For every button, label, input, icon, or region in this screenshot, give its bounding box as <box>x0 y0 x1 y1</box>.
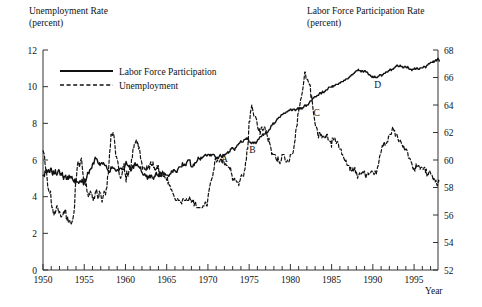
left-tick-label: 6 <box>32 156 37 166</box>
axes-layer: 0246810125254565860626466681950195519601… <box>28 46 454 285</box>
legend-layer: Labor Force ParticipationUnemployment <box>60 67 217 91</box>
left-tick-label: 4 <box>32 192 37 202</box>
annotation-layer: ABCD <box>221 80 381 164</box>
annotation-a: A <box>221 154 228 164</box>
annotation-b: B <box>249 145 255 155</box>
x-tick-label: 1980 <box>281 275 300 285</box>
x-tick-label: 1955 <box>75 275 94 285</box>
right-tick-label: 64 <box>444 101 454 111</box>
left-tick-label: 2 <box>32 229 37 239</box>
x-tick-label: 1990 <box>363 275 382 285</box>
legend-label-unemployment: Unemployment <box>119 81 178 91</box>
x-tick-label: 1985 <box>322 275 341 285</box>
right-tick-label: 54 <box>444 238 454 248</box>
x-tick-label: 1970 <box>198 275 217 285</box>
right-tick-label: 60 <box>444 156 454 166</box>
right-tick-label: 56 <box>444 211 454 221</box>
right-tick-label: 68 <box>444 46 454 56</box>
right-tick-label: 58 <box>444 183 454 193</box>
chart-root: Unemployment Rate(percent) Labor Force P… <box>0 0 482 307</box>
annotation-d: D <box>374 80 381 90</box>
x-tick-label: 1995 <box>405 275 424 285</box>
series-line-unemployment <box>43 72 439 224</box>
series-line-labor-force-participation <box>43 58 439 185</box>
left-tick-label: 12 <box>28 46 38 56</box>
right-tick-label: 52 <box>444 266 454 276</box>
left-tick-label: 10 <box>28 82 38 92</box>
left-tick-label: 8 <box>32 119 37 129</box>
x-tick-label: 1960 <box>116 275 135 285</box>
annotation-c: C <box>314 108 320 118</box>
plot-area: 0246810125254565860626466681950195519601… <box>0 0 482 307</box>
legend-label-labor-force-participation: Labor Force Participation <box>119 67 217 77</box>
x-tick-label: 1950 <box>34 275 53 285</box>
right-tick-label: 66 <box>444 73 454 83</box>
right-tick-label: 62 <box>444 128 454 138</box>
x-tick-label: 1965 <box>157 275 176 285</box>
x-tick-label: 1975 <box>240 275 259 285</box>
